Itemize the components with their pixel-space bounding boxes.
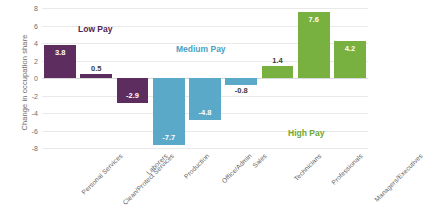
x-axis-tick-label: Production: [183, 152, 211, 180]
bar-slot: 1.4: [259, 8, 295, 148]
x-axis-label-wrap: Production: [173, 152, 206, 159]
bar-value-label: 3.8: [42, 48, 78, 57]
bar[interactable]: [225, 78, 257, 85]
x-axis-tick-label: Managers/Executives: [373, 152, 424, 203]
gridline: [42, 148, 368, 149]
annotation-high-pay: High Pay: [288, 128, 324, 138]
y-axis-tick-label: -4: [12, 110, 38, 117]
bar-slot: -7.7: [151, 8, 187, 148]
annotation-medium-pay: Medium Pay: [176, 44, 226, 54]
y-axis-tick-label: -8: [12, 145, 38, 152]
bar-value-label: -4.8: [187, 108, 223, 117]
bar-value-label: 7.6: [296, 15, 332, 24]
bar-slot: 7.6: [296, 8, 332, 148]
x-axis-tick-label: Sales: [251, 152, 268, 169]
bar-value-label: 1.4: [259, 56, 295, 65]
x-axis-label-wrap: Sales: [246, 152, 263, 159]
bar[interactable]: [262, 66, 294, 78]
bar[interactable]: [80, 74, 112, 78]
y-axis-tick-label: -6: [12, 127, 38, 134]
y-axis-tick-label: 6: [12, 22, 38, 29]
bar-value-label: 0.5: [78, 64, 114, 73]
bar-slot: -4.8: [187, 8, 223, 148]
bar-slot: 4.2: [332, 8, 368, 148]
bar-value-label: -0.8: [223, 86, 259, 95]
bar-slot: 3.8: [42, 8, 78, 148]
y-axis-tick-label: 8: [12, 5, 38, 12]
x-axis-label-wrap: Technicians: [282, 152, 318, 159]
bar-slot: -2.9: [114, 8, 150, 148]
annotation-low-pay: Low Pay: [78, 24, 112, 34]
y-axis-tick-label: 4: [12, 40, 38, 47]
x-axis-tick-label: Clean/Protect Services: [121, 152, 175, 206]
x-axis-label-wrap: Managers/Executives: [354, 152, 419, 159]
y-axis-tick-label: 0: [12, 75, 38, 82]
bar-value-label: -2.9: [114, 91, 150, 100]
x-axis-label-wrap: Laborers: [137, 152, 164, 159]
y-axis-tick-label: -2: [12, 92, 38, 99]
y-axis-tick-label: 2: [12, 57, 38, 64]
x-axis-label-wrap: Office/Admin: [209, 152, 248, 159]
bar-slot: -0.8: [223, 8, 259, 148]
x-axis-label-wrap: Professionals: [318, 152, 359, 159]
x-axis-category-labels: Personal ServicesClean/Protect ServicesL…: [42, 150, 368, 208]
bar-value-label: 4.2: [332, 44, 368, 53]
bar-value-label: -7.7: [151, 133, 187, 142]
